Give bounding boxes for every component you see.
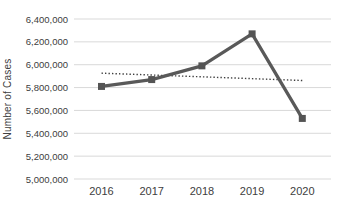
x-axis-tick-label: 2019 — [240, 185, 264, 197]
y-axis-tick-label: 6,400,000 — [26, 14, 68, 25]
y-axis-tick-label: 5,800,000 — [26, 82, 68, 93]
y-axis-tick-label: 6,000,000 — [26, 59, 68, 70]
y-axis-tick-label: 5,600,000 — [26, 105, 68, 116]
x-axis-tick-label: 2016 — [89, 185, 113, 197]
cases-line — [102, 34, 303, 119]
trendline — [102, 73, 303, 80]
x-axis-tick-label: 2020 — [290, 185, 314, 197]
data-point-marker — [198, 62, 205, 69]
data-point-marker — [249, 30, 256, 37]
y-axis-tick-label: 6,200,000 — [26, 36, 68, 47]
chart-container: 6,400,0006,200,0006,000,0005,800,0005,60… — [0, 0, 338, 213]
cases-line-chart: 6,400,0006,200,0006,000,0005,800,0005,60… — [0, 0, 338, 213]
x-axis-tick-label: 2017 — [139, 185, 163, 197]
x-axis-tick-label: 2018 — [190, 185, 214, 197]
y-axis-title: Number of Cases — [2, 59, 13, 140]
y-axis-tick-label: 5,200,000 — [26, 151, 68, 162]
data-point-marker — [299, 115, 306, 122]
data-point-marker — [148, 76, 155, 83]
y-axis-tick-label: 5,400,000 — [26, 128, 68, 139]
y-axis-tick-label: 5,000,000 — [26, 174, 68, 185]
data-point-marker — [98, 83, 105, 90]
